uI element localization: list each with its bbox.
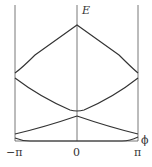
energy-axis-label: E [82, 5, 90, 16]
band-2-curve [15, 116, 138, 134]
band-diagram [0, 0, 152, 167]
band-3-curve [15, 78, 138, 111]
phi-axis-label: ϕ [141, 135, 149, 146]
tick-minus-pi: −π [6, 147, 22, 158]
band-1-curve [15, 137, 138, 141]
band-4-curve [15, 25, 138, 73]
tick-zero: 0 [73, 147, 80, 158]
tick-pi: π [134, 147, 141, 158]
